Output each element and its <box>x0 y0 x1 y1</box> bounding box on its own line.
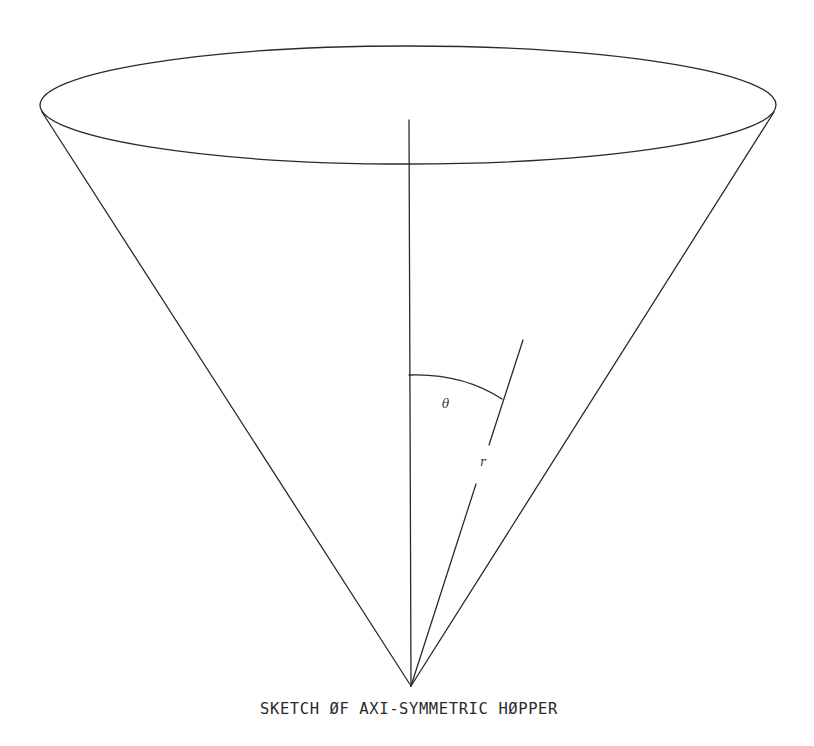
cone-left-side <box>42 112 411 686</box>
theta-label: θ <box>442 397 450 411</box>
theta-arc <box>409 375 502 399</box>
hopper-sketch-svg: θ r SKETCH ØF AXI-SYMMETRIC HØPPER <box>0 0 814 746</box>
diagram-caption: SKETCH ØF AXI-SYMMETRIC HØPPER <box>260 700 558 718</box>
cone-rim-ellipse <box>40 46 776 164</box>
cone-right-side <box>411 112 774 686</box>
radius-label: r <box>480 455 487 469</box>
radius-line-upper <box>489 340 523 445</box>
hopper-diagram: θ r SKETCH ØF AXI-SYMMETRIC HØPPER <box>0 0 814 746</box>
radius-line-lower <box>411 484 476 686</box>
central-axis <box>409 120 411 686</box>
